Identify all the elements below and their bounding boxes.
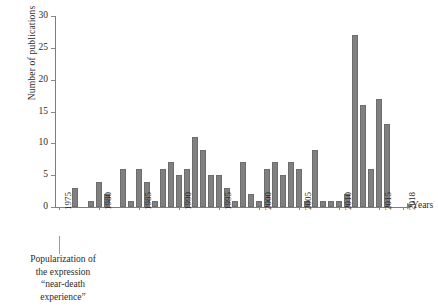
x-tick-mark [403,207,404,210]
y-axis-title: Number of publications [27,0,37,143]
y-tick-label: 25 [26,43,48,53]
y-tick-label: 5 [26,170,48,180]
x-tick-mark [299,207,300,210]
bar [160,169,166,207]
bar [288,162,294,207]
x-tick-label: 2018 [407,192,417,210]
x-tick-mark [59,207,60,210]
bar [312,150,318,207]
bar [320,201,326,207]
bar [192,137,198,207]
annotation-leader-line [59,236,60,254]
x-tick-mark [99,207,100,210]
annotation-line: Popularization of [2,253,124,266]
x-tick-label: 1995 [223,192,233,210]
bar [248,194,254,207]
bar [128,201,134,207]
plot-area [55,16,407,207]
bar [296,169,302,207]
x-tick-label: 2015 [383,192,393,210]
y-tick-label: 15 [26,107,48,117]
bar [376,99,382,207]
annotation-text: Popularization ofthe expression“near-dea… [2,253,124,303]
bar [200,150,206,207]
bar-series [55,16,407,207]
publications-bar-chart: Number of publications Years 05101520253… [0,0,438,307]
bar [208,175,214,207]
x-tick-label: 2000 [263,192,273,210]
y-tick-label: 30 [26,11,48,21]
bar [120,169,126,207]
annotation-line: experience” [2,291,124,304]
bar [136,169,142,207]
bar [272,162,278,207]
x-tick-mark [179,207,180,210]
bar [240,162,246,207]
bar [232,201,238,207]
bar [88,201,94,207]
bar [352,35,358,207]
bar [152,201,158,207]
bar [328,201,334,207]
x-tick-mark [219,207,220,210]
x-tick-label: 1985 [143,192,153,210]
y-tick-label: 10 [26,138,48,148]
x-tick-mark [139,207,140,210]
bar [360,105,366,207]
y-tick-mark [51,207,55,208]
annotation-line: “near-death [2,278,124,291]
bar [96,182,102,207]
y-tick-label: 20 [26,75,48,85]
bar [168,162,174,207]
bar [176,175,182,207]
x-tick-label: 2005 [303,192,313,210]
bar [216,175,222,207]
y-tick-label: 0 [26,202,48,212]
x-tick-mark [259,207,260,210]
x-tick-label: 2010 [343,192,353,210]
x-tick-mark [379,207,380,210]
bar [72,188,78,207]
x-tick-label: 1980 [103,192,113,210]
x-tick-mark [339,207,340,210]
x-tick-label: 1990 [183,192,193,210]
bar [280,175,286,207]
x-tick-label: 1975 [63,192,73,210]
annotation-line: the expression [2,266,124,279]
bar [368,169,374,207]
